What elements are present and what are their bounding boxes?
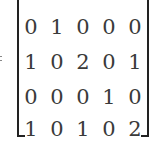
matrix-cell: 0 bbox=[99, 118, 119, 140]
matrix-cell: 0 bbox=[47, 51, 67, 73]
matrix-cell: 0 bbox=[99, 51, 119, 73]
matrix-cell: 0 bbox=[21, 16, 41, 38]
matrix-cell: 0 bbox=[47, 86, 67, 108]
matrix-cell: 1 bbox=[99, 86, 119, 108]
matrix-cell: 0 bbox=[99, 16, 119, 38]
matrix-cell: 1 bbox=[125, 51, 145, 73]
matrix-cell: 2 bbox=[73, 51, 93, 73]
equals-sign-fragment bbox=[0, 55, 2, 62]
matrix-cell: 1 bbox=[21, 51, 41, 73]
matrix-cell: 0 bbox=[125, 86, 145, 108]
matrix-cell: 0 bbox=[21, 86, 41, 108]
matrix-cell: 0 bbox=[47, 118, 67, 140]
matrix-cell: 0 bbox=[73, 16, 93, 38]
matrix-cell: 1 bbox=[47, 16, 67, 38]
matrix-cell: 1 bbox=[21, 118, 41, 140]
matrix-cell: 2 bbox=[125, 118, 145, 140]
matrix-cell: 1 bbox=[73, 118, 93, 140]
matrix-cell: 0 bbox=[73, 86, 93, 108]
matrix-cell: 0 bbox=[125, 16, 145, 38]
